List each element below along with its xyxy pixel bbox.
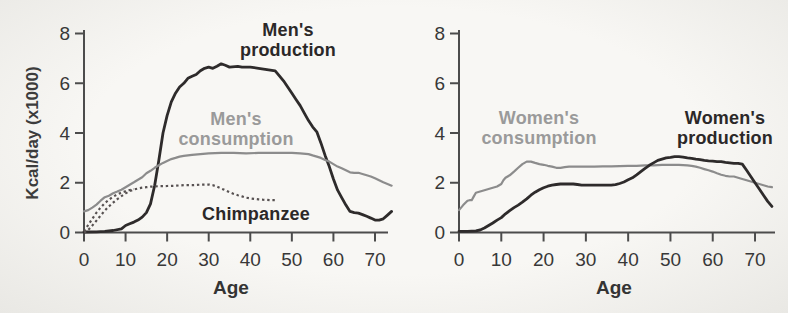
y-tick-label: 4: [434, 123, 445, 144]
x-tick-label: 50: [660, 249, 681, 270]
y-tick-label: 0: [434, 222, 445, 243]
x-tick-label: 70: [744, 249, 765, 270]
x-tick-label: 30: [198, 249, 219, 270]
label-line: Men's: [178, 109, 293, 129]
label-line: consumption: [178, 129, 293, 149]
x-axis-label-right: Age: [596, 277, 632, 299]
x-tick-label: 30: [575, 249, 596, 270]
x-tick-label: 60: [702, 249, 723, 270]
x-tick-label: 10: [115, 249, 136, 270]
figure-canvas: 0246801020304050607002468010203040506070…: [0, 0, 788, 313]
x-tick-label: 50: [281, 249, 302, 270]
x-tick-label: 20: [533, 249, 554, 270]
label-line: Women's: [677, 108, 773, 128]
label-line: Men's: [240, 20, 336, 40]
x-axis-label-left: Age: [213, 277, 249, 299]
series-women-s-production: [459, 157, 772, 232]
x-tick-label: 20: [157, 249, 178, 270]
x-tick-label: 0: [79, 249, 90, 270]
label-line: Women's: [481, 108, 596, 128]
label-mens-consumption: Men's consumption: [178, 109, 293, 149]
label-mens-production: Men's production: [240, 20, 336, 60]
x-tick-label: 0: [454, 249, 465, 270]
y-tick-label: 4: [59, 123, 70, 144]
x-tick-label: 70: [364, 249, 385, 270]
y-tick-label: 6: [59, 73, 70, 94]
y-tick-label: 6: [434, 73, 445, 94]
x-tick-label: 40: [240, 249, 261, 270]
label-line: consumption: [481, 128, 596, 148]
y-tick-label: 2: [59, 172, 70, 193]
label-womens-production: Women's production: [677, 108, 773, 148]
y-axis-label: Kcal/day (x1000): [23, 66, 43, 199]
dual-panel-line-chart: 0246801020304050607002468010203040506070: [0, 0, 788, 313]
x-tick-label: 40: [618, 249, 639, 270]
label-womens-consumption: Women's consumption: [481, 108, 596, 148]
label-line: production: [677, 128, 773, 148]
x-tick-label: 60: [323, 249, 344, 270]
x-tick-label: 10: [491, 249, 512, 270]
label-chimpanzee: Chimpanzee: [202, 204, 310, 224]
label-line: Chimpanzee: [202, 204, 310, 224]
y-tick-label: 0: [59, 222, 70, 243]
y-tick-label: 8: [59, 23, 70, 44]
y-tick-label: 8: [434, 23, 445, 44]
y-tick-label: 2: [434, 172, 445, 193]
label-line: production: [240, 40, 336, 60]
